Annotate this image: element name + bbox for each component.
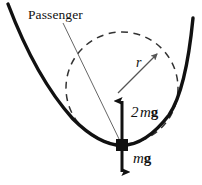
- physics-diagram-figure: Passenger r 2mg mg: [0, 0, 202, 185]
- normal-force-coefficient: 2: [131, 104, 139, 120]
- normal-force-label: 2mg: [131, 105, 158, 120]
- weight-label: mg: [133, 151, 151, 166]
- radius-label: r: [136, 56, 141, 70]
- diagram-canvas: [0, 0, 202, 185]
- weight-gravity-symbol: g: [144, 150, 152, 166]
- normal-force-gravity-symbol: g: [151, 104, 159, 120]
- passenger-label: Passenger: [28, 8, 83, 22]
- weight-mass-symbol: m: [133, 150, 144, 166]
- normal-force-mass-symbol: m: [140, 104, 151, 120]
- passenger-block: [117, 140, 128, 151]
